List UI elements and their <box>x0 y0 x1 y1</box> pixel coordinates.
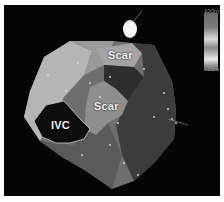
voltage-color-scale <box>204 13 218 71</box>
scale-min-label: -00m <box>205 66 219 72</box>
scar-label-center: Scar <box>94 100 119 112</box>
ivc-label: IVC <box>51 119 70 131</box>
scale-max-label: 100m <box>204 8 219 14</box>
voltage-map-image: Scar Scar IVC 100m -00m <box>4 5 220 196</box>
scar-label-upper: Scar <box>108 49 133 61</box>
